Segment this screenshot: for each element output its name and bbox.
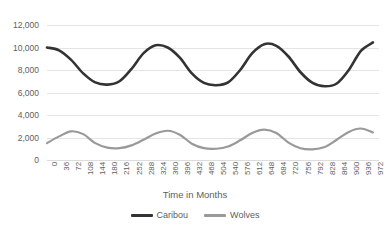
x-axis-tick-label: 252 bbox=[136, 162, 144, 175]
x-axis-tick-label: 468 bbox=[208, 162, 216, 175]
legend-entry[interactable]: Wolves bbox=[204, 210, 259, 220]
x-axis-tick-label: 72 bbox=[75, 162, 83, 171]
x-axis-tick-label: 576 bbox=[244, 162, 252, 175]
x-axis-tick-label: 828 bbox=[329, 162, 337, 175]
x-axis-tick-label: 864 bbox=[341, 162, 349, 175]
x-axis-tick-label: 0 bbox=[51, 162, 59, 166]
x-axis-tick-label: 612 bbox=[256, 162, 264, 175]
x-axis-tick-label: 144 bbox=[99, 162, 107, 175]
y-axis-tick-label: 0 bbox=[34, 156, 39, 165]
y-axis-tick-label: 8,000 bbox=[18, 66, 39, 75]
x-axis-tick-label: 540 bbox=[232, 162, 240, 175]
x-axis-tick-label: 972 bbox=[377, 162, 385, 175]
x-axis-tick-label: 900 bbox=[353, 162, 361, 175]
x-axis-tick-label: 720 bbox=[292, 162, 300, 175]
chart-legend: CaribouWolves bbox=[0, 210, 390, 220]
plot-area bbox=[47, 25, 379, 160]
x-axis-tick-label: 396 bbox=[184, 162, 192, 175]
x-axis-tick-label: 432 bbox=[196, 162, 204, 175]
y-axis-tick-label: 12,000 bbox=[13, 21, 39, 30]
y-axis-tick-label: 2,000 bbox=[18, 133, 39, 142]
legend-swatch-icon bbox=[131, 214, 153, 217]
series-layer bbox=[47, 25, 379, 160]
series-line-wolves bbox=[47, 128, 373, 149]
x-axis-tick-label: 180 bbox=[111, 162, 119, 175]
x-axis-tick-label: 792 bbox=[317, 162, 325, 175]
x-axis-tick-label: 684 bbox=[280, 162, 288, 175]
legend-entry[interactable]: Caribou bbox=[131, 210, 189, 220]
legend-label: Wolves bbox=[230, 210, 259, 220]
population-dynamics-chart: 02,0004,0006,0008,00010,00012,000 036721… bbox=[0, 0, 390, 235]
legend-swatch-icon bbox=[204, 214, 226, 217]
x-axis-tick-label: 216 bbox=[123, 162, 131, 175]
y-axis-tick-label: 10,000 bbox=[13, 43, 39, 52]
x-axis-title: Time in Months bbox=[0, 189, 390, 200]
x-axis-tick-label: 648 bbox=[268, 162, 276, 175]
y-axis: 02,0004,0006,0008,00010,00012,000 bbox=[0, 25, 43, 160]
x-axis-tick-label: 108 bbox=[87, 162, 95, 175]
legend-label: Caribou bbox=[157, 210, 189, 220]
x-axis-tick-label: 36 bbox=[63, 162, 71, 171]
y-axis-tick-label: 4,000 bbox=[18, 111, 39, 120]
y-axis-tick-label: 6,000 bbox=[18, 88, 39, 97]
x-axis-tick-label: 504 bbox=[220, 162, 228, 175]
x-axis-tick-label: 324 bbox=[160, 162, 168, 175]
x-axis-tick-label: 288 bbox=[148, 162, 156, 175]
gridline bbox=[47, 160, 379, 161]
x-axis-tick-label: 360 bbox=[172, 162, 180, 175]
series-line-caribou bbox=[47, 42, 373, 86]
x-axis-tick-label: 936 bbox=[365, 162, 373, 175]
x-axis-tick-label: 756 bbox=[305, 162, 313, 175]
